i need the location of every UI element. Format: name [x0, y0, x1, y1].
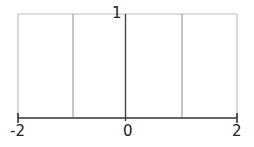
y-tick-label-1: 1 [112, 6, 122, 21]
x-tick-label-2: 2 [232, 124, 242, 139]
x-tick-label-neg2: -2 [10, 124, 25, 139]
x-tick-label-0: 0 [123, 124, 133, 139]
